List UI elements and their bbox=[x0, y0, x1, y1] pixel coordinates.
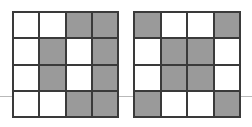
cell-r2-c2-shaded bbox=[40, 39, 64, 63]
cell-r2-c3-empty bbox=[67, 39, 91, 63]
cell-r3-c3-shaded bbox=[188, 66, 213, 90]
cell-r3-c1-empty bbox=[135, 66, 160, 90]
cell-r1-c4-shaded bbox=[215, 13, 240, 37]
cell-r2-c4-shaded bbox=[93, 39, 117, 63]
cell-r4-c4-shaded bbox=[215, 92, 240, 116]
cell-r2-c3-shaded bbox=[188, 39, 213, 63]
figure-canvas bbox=[0, 0, 252, 127]
right-grid bbox=[133, 11, 241, 118]
cell-r1-c1-shaded bbox=[135, 13, 160, 37]
cell-r2-c1-empty bbox=[135, 39, 160, 63]
cell-r1-c3-shaded bbox=[67, 13, 91, 37]
cell-r3-c2-shaded bbox=[40, 66, 64, 90]
cell-r3-c4-empty bbox=[215, 66, 240, 90]
cell-r1-c1-empty bbox=[14, 13, 38, 37]
left-grid bbox=[12, 11, 119, 118]
cell-r3-c3-empty bbox=[67, 66, 91, 90]
cell-r3-c4-shaded bbox=[93, 66, 117, 90]
cell-r2-c2-shaded bbox=[162, 39, 187, 63]
cell-r1-c4-shaded bbox=[93, 13, 117, 37]
cell-r4-c1-shaded bbox=[135, 92, 160, 116]
cell-r4-c1-empty bbox=[14, 92, 38, 116]
cell-r2-c1-empty bbox=[14, 39, 38, 63]
cell-r3-c1-empty bbox=[14, 66, 38, 90]
cell-r4-c3-shaded bbox=[67, 92, 91, 116]
cell-r1-c3-empty bbox=[188, 13, 213, 37]
cell-r4-c2-empty bbox=[162, 92, 187, 116]
cell-r4-c2-empty bbox=[40, 92, 64, 116]
cell-r1-c2-empty bbox=[40, 13, 64, 37]
cell-r4-c3-empty bbox=[188, 92, 213, 116]
cell-r3-c2-shaded bbox=[162, 66, 187, 90]
cell-r2-c4-empty bbox=[215, 39, 240, 63]
cell-r1-c2-empty bbox=[162, 13, 187, 37]
cell-r4-c4-shaded bbox=[93, 92, 117, 116]
